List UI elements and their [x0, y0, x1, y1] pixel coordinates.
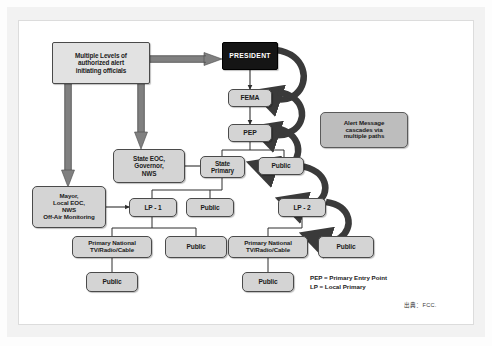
- edge-officials-to-mayor: [62, 84, 75, 187]
- edge-lp2-split: [268, 217, 302, 236]
- node-alert-callout: Alert Message cascades via multiple path…: [320, 112, 408, 148]
- screenshot-canvas: Multiple Levels of authorized alert init…: [0, 0, 492, 346]
- edge-pep-split: [222, 141, 284, 157]
- edge-officials-to-state-eoc: [135, 84, 148, 149]
- node-state-eoc[interactable]: State EOC, Governor, NWS: [113, 149, 185, 183]
- node-lp2[interactable]: LP - 2: [278, 198, 326, 217]
- node-president[interactable]: PRESIDENT: [222, 42, 278, 70]
- source-note: 出典：FCC.: [404, 301, 436, 309]
- node-public-bottom-left[interactable]: Public: [86, 272, 138, 292]
- legend: PEP = Primary Entry Point LP = Local Pri…: [310, 274, 387, 292]
- node-public-top[interactable]: Public: [258, 157, 304, 175]
- node-primary-national-right[interactable]: Primary National TV/Radio/Cable: [228, 236, 308, 258]
- node-pep[interactable]: PEP: [228, 124, 272, 142]
- node-public-lp2[interactable]: Public: [318, 236, 374, 258]
- node-fema[interactable]: FEMA: [228, 89, 272, 107]
- node-lp1[interactable]: LP - 1: [129, 198, 177, 217]
- node-officials[interactable]: Multiple Levels of authorized alert init…: [52, 42, 150, 84]
- node-mayor[interactable]: Mayor, Local EOC, NWS Off-Air Monitoring: [32, 186, 106, 228]
- edge-officials-to-president: [150, 53, 222, 66]
- node-public-lp1-row[interactable]: Public: [186, 198, 234, 217]
- node-state-primary[interactable]: State Primary: [200, 156, 245, 178]
- edge-lp1-split: [112, 217, 196, 236]
- node-primary-national-left[interactable]: Primary National TV/Radio/Cable: [72, 236, 152, 258]
- node-public-mid[interactable]: Public: [165, 236, 227, 258]
- node-public-bottom-right[interactable]: Public: [242, 272, 294, 292]
